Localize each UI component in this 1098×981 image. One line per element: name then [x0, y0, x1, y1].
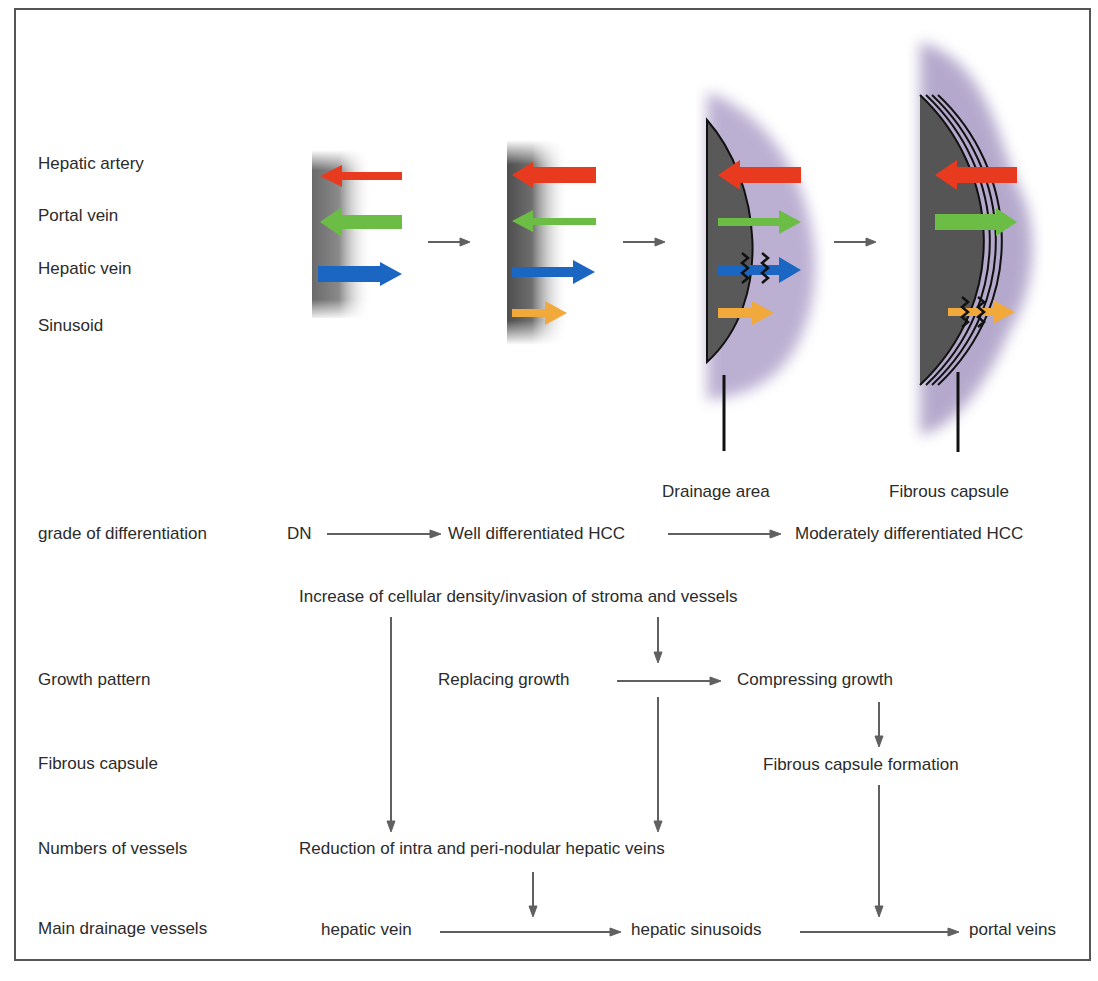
row-label-capsule: Fibrous capsule: [38, 754, 158, 774]
fibrous-capsule-annotation: Fibrous capsule: [889, 482, 1009, 502]
node-hepatic-vein: hepatic vein: [321, 920, 412, 940]
node-compressing-growth: Compressing growth: [737, 670, 893, 690]
node-dn: DN: [287, 524, 312, 544]
row-label-vessels: Numbers of vessels: [38, 839, 187, 859]
node-capsule-formation: Fibrous capsule formation: [763, 755, 959, 775]
legend-hepatic-artery: Hepatic artery: [38, 154, 144, 174]
legend-portal-vein: Portal vein: [38, 206, 118, 226]
node-moderately-differentiated: Moderately differentiated HCC: [795, 524, 1023, 544]
node-hepatic-sinusoids: hepatic sinusoids: [631, 920, 761, 940]
node-portal-veins: portal veins: [969, 920, 1056, 940]
row-label-growth: Growth pattern: [38, 670, 150, 690]
node-well-differentiated: Well differentiated HCC: [448, 524, 625, 544]
row-label-grade: grade of differentiation: [38, 524, 207, 544]
row-label-drainage: Main drainage vessels: [38, 919, 207, 939]
node-replacing-growth: Replacing growth: [438, 670, 569, 690]
drainage-area-label: Drainage area: [662, 482, 770, 502]
legend-sinusoid: Sinusoid: [38, 316, 103, 336]
node-reduction-veins: Reduction of intra and peri-nodular hepa…: [299, 839, 665, 859]
node-increase-density: Increase of cellular density/invasion of…: [299, 587, 737, 607]
legend-hepatic-vein: Hepatic vein: [38, 259, 132, 279]
